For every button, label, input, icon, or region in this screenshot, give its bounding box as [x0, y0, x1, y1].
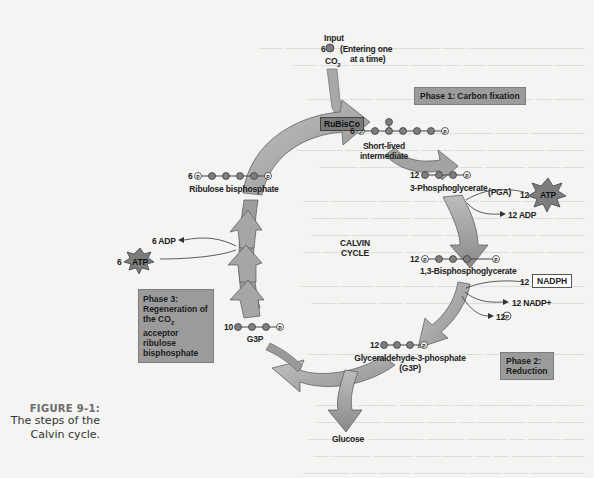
- adp-out-line: [467, 203, 500, 214]
- nadp-out-label: 12 NADP+: [512, 298, 551, 308]
- phase3-label: Phase 3: Regeneration of the CO2 accepto…: [138, 289, 214, 363]
- calvin-cycle-title: CALVIN CYCLE: [330, 238, 380, 258]
- adp-out-label: 12 ADP: [508, 210, 536, 220]
- pi-out-count: 12: [496, 312, 505, 322]
- glucose-label: Glucose: [328, 434, 368, 444]
- nadph-box: NADPH: [532, 274, 572, 288]
- svg-text:P: P: [505, 314, 509, 320]
- arc-top-arrow: [243, 100, 370, 195]
- short-lived-intermediate-chain: P P: [358, 119, 449, 135]
- g3p-12-count: 12: [370, 340, 379, 350]
- g3p-10-chain: P: [235, 324, 284, 331]
- short-lived-name-line2: intermediate: [354, 151, 414, 161]
- pga-count: 12: [410, 170, 419, 180]
- pga-alias: (PGA): [488, 187, 511, 197]
- bpg-count: 12: [410, 254, 419, 264]
- figure-number: FIGURE 9-1:: [0, 403, 100, 414]
- short-lived-count: 6: [350, 126, 355, 136]
- bpg-name: 1,3-Bisphosphoglycerate: [420, 266, 516, 276]
- caption-line1: The steps of the: [0, 414, 100, 428]
- input-molecule: CO2: [325, 56, 341, 70]
- regen-atp-count: 6: [117, 257, 122, 267]
- input-title: Input: [324, 33, 344, 43]
- co2-molecule-icon: [326, 44, 334, 52]
- arc-bpg-to-g3p: [418, 282, 470, 348]
- regen-atp-label: ATP: [128, 257, 152, 267]
- caption-line2: Calvin cycle.: [0, 428, 100, 442]
- input-note-line1: (Entering one: [340, 44, 392, 54]
- input-count: 6: [321, 44, 326, 54]
- phase1-label: Phase 1: Carbon fixation: [414, 87, 526, 105]
- g3p-12-alias: (G3P): [380, 363, 440, 373]
- g3p-10-name: G3P: [240, 334, 270, 344]
- atp-label: ATP: [536, 190, 560, 200]
- phase2-label: Phase 2: Reduction: [500, 352, 554, 380]
- rubisco-enzyme-label: RuBisCo: [320, 117, 364, 131]
- short-lived-name-line1: Short-lived: [356, 141, 412, 151]
- pga-name: 3-Phosphoglycerate: [410, 183, 488, 193]
- g3p-12-name: Glyceraldehyde-3-phosphate: [350, 353, 470, 363]
- figure-caption: FIGURE 9-1: The steps of the Calvin cycl…: [0, 403, 100, 442]
- g3p-10-count: 10: [224, 322, 233, 332]
- rubp-count: 6: [188, 171, 193, 181]
- atp-in-count: 12: [520, 190, 529, 200]
- regen-adp-label: 6 ADP: [152, 236, 176, 246]
- input-note-line2: at a time): [350, 54, 385, 64]
- rubp-name: Ribulose bisphosphate: [188, 184, 280, 194]
- nadph-count: 12: [520, 277, 529, 287]
- arc-bottom-arrow: [266, 343, 395, 392]
- arc-regeneration-arrow: [228, 200, 264, 318]
